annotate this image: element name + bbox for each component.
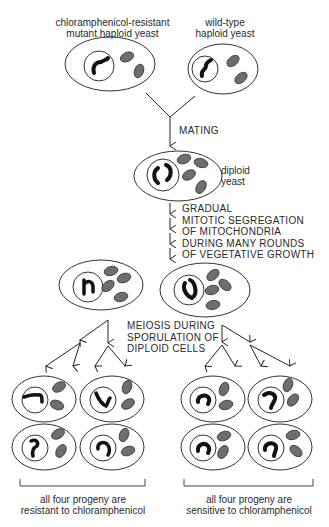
progeny-resistant-group <box>12 376 144 470</box>
resistant-bracket <box>20 479 145 486</box>
diploid-cell-sensitive <box>160 263 250 317</box>
mutant-parent-label: chloramphenicol-resistantmutant haploid … <box>45 17 180 39</box>
wildtype-parent-label: wild-typehaploid yeast <box>180 17 270 39</box>
diagram-canvas <box>0 0 329 527</box>
sensitive-bracket <box>184 479 313 486</box>
segregation-label: GRADUALMITOTIC SEGREGATIONOF MITOCHONDRI… <box>182 203 314 261</box>
mating-label: MATING <box>179 125 219 137</box>
diploid-label: diploidyeast <box>221 165 250 187</box>
resistant-result-label: all four progeny areresistant to chloram… <box>20 494 146 516</box>
mutant-haploid-cell <box>65 37 155 91</box>
diploid-cell-resistant <box>59 260 143 310</box>
progeny-sensitive-group <box>181 376 312 470</box>
wildtype-haploid-cell <box>188 44 258 94</box>
diploid-cell <box>134 151 222 201</box>
sensitive-result-label: all four progeny aresensitive to chloram… <box>184 494 314 516</box>
meiosis-label: MEIOSIS DURINGSPORULATION OFDIPLOID CELL… <box>127 320 219 355</box>
